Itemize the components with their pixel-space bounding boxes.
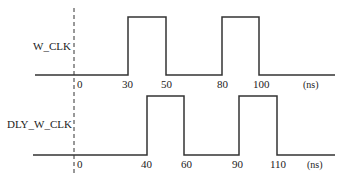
dly-w-clk-tick-40: 40 [141, 158, 153, 170]
signal-dly-w-clk: DLY_W_CLK 0 40 60 90 110 (ns) [7, 96, 335, 171]
dly-w-clk-waveform [33, 96, 335, 155]
timing-diagram: W_CLK 0 30 50 80 100 (ns) DLY_W_CLK 0 40… [0, 0, 341, 176]
dly-w-clk-tick-zero: 0 [77, 158, 83, 170]
w-clk-tick-100: 100 [253, 78, 270, 90]
w-clk-tick-80: 80 [217, 78, 229, 90]
dly-w-clk-label: DLY_W_CLK [7, 118, 72, 130]
w-clk-waveform [35, 17, 335, 75]
w-clk-unit: (ns) [303, 79, 319, 91]
w-clk-tick-50: 50 [161, 78, 173, 90]
signal-w-clk: W_CLK 0 30 50 80 100 (ns) [33, 17, 335, 91]
w-clk-label: W_CLK [33, 40, 71, 52]
w-clk-tick-30: 30 [122, 78, 134, 90]
dly-w-clk-tick-60: 60 [181, 158, 193, 170]
dly-w-clk-unit: (ns) [307, 159, 323, 171]
dly-w-clk-tick-110: 110 [270, 158, 287, 170]
dly-w-clk-tick-90: 90 [232, 158, 244, 170]
w-clk-tick-zero: 0 [77, 78, 83, 90]
